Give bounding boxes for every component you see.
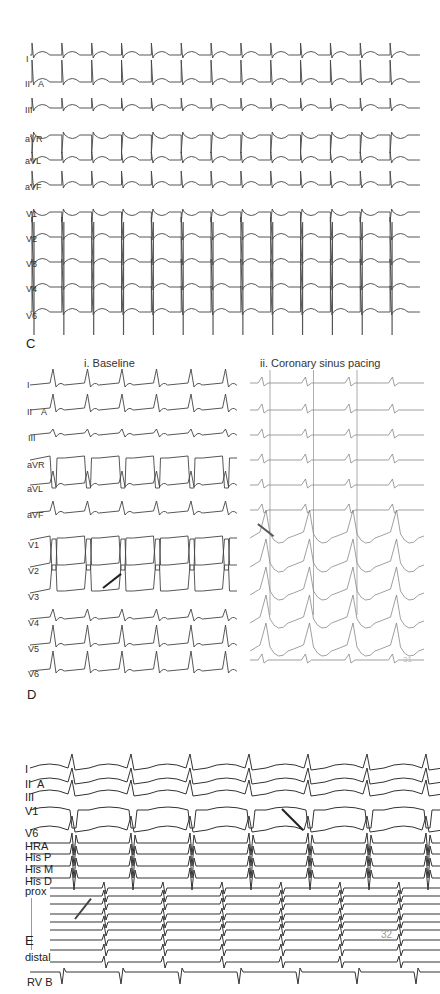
ecg-trace [30,807,440,828]
d-lead-label-v5: V5 [28,645,39,654]
e-lead-label-iii: III [25,792,34,803]
ecg-trace [50,908,440,920]
lead-label-avr: aVR [25,135,43,144]
ecg-trace [250,479,424,488]
panel-letter-e: E [25,933,34,948]
ecg-trace [30,98,420,111]
d-lead-label-v3: V3 [28,593,39,602]
d-lead-label-i: I [27,381,30,390]
lead-label-avf: aVF [25,183,42,192]
ecg-trace [50,882,440,894]
e-lead-label-distal: distal [25,952,51,963]
annotation-a-d: A [41,408,47,417]
page-number-31: 31 [403,655,412,664]
lead-label-iii: III [25,106,33,115]
ecg-trace [250,429,424,438]
annotation-a-c: A [38,80,44,89]
ecg-trace [250,510,424,543]
e-lead-label-v1: V1 [25,806,38,817]
panel-c-traces [0,0,440,345]
ecg-trace [30,868,440,890]
lead-label-v2: V2 [26,235,37,244]
d-lead-label-v6: V6 [28,670,39,679]
ecg-trace [250,595,424,628]
ecg-trace [30,471,237,487]
panel-e: I II A III V1 V6 HRA His P His M His D p… [0,700,440,994]
ecg-trace [30,754,440,770]
ecg-trace [30,209,420,222]
ecg-trace [30,609,237,621]
ecg-trace [30,625,237,647]
panel-e-traces [0,700,440,994]
page-number-32: 32 [381,929,392,940]
e-lead-label-his-m: His M [25,864,53,875]
cs-pacing-traces [220,355,440,685]
panel-d: i. Baseline ii. Coronary sinus pacing I … [0,355,440,685]
d-lead-label-v1: V1 [28,541,39,550]
ecg-trace [30,429,237,437]
ecg-trace [30,651,237,673]
d-lead-label-iii: III [28,434,36,443]
e-lead-label-his-p: His P [25,852,51,863]
ecg-trace [250,623,424,656]
ecg-trace [50,898,440,910]
panel-letter-c: C [26,336,35,351]
lead-label-ii: II [25,80,30,89]
panel-c: I II A III aVR aVL aVF V1 V2 V3 V4 V6 C [0,0,440,345]
d-lead-label-ii: II [27,408,32,417]
ecg-trace [50,944,440,956]
e-lead-label-v6: V6 [25,828,38,839]
ecg-trace [30,816,440,832]
e-lead-label-i: I [25,764,28,775]
e-lead-label-rv-b: RV B [27,977,52,988]
ecg-trace [30,856,440,878]
ecg-trace [30,43,420,58]
ecg-trace [30,565,237,593]
ecg-trace [50,916,440,928]
e-lead-label-ii: II [25,779,31,790]
lead-label-avl: aVL [25,157,41,166]
ecg-trace [250,454,424,463]
ecg-trace [50,956,440,968]
lead-label-v4: V4 [26,285,37,294]
lead-label-v6: V6 [26,312,37,321]
ecg-trace [30,768,440,784]
ecg-trace [30,60,420,85]
ecg-trace [30,968,440,984]
ecg-trace [30,844,440,866]
d-lead-label-avr: aVR [27,461,45,470]
annotation-a-e: A [37,779,44,790]
ecg-trace [30,501,237,515]
ecg-trace [250,377,424,386]
lead-label-v1: V1 [26,210,37,219]
ecg-trace [30,171,420,188]
ecg-trace [30,217,420,240]
d-lead-label-v4: V4 [28,619,39,628]
ecg-trace [50,890,440,902]
ecg-trace [30,369,237,387]
e-lead-label-prox: prox [25,886,46,897]
ecg-trace [30,152,420,163]
lead-label-i: I [26,55,29,64]
d-lead-label-avl: aVL [27,485,43,494]
ecg-trace [250,504,424,513]
ecg-trace [250,539,424,572]
lead-label-v3: V3 [26,260,37,269]
ecg-trace [30,539,237,567]
ecg-trace [250,404,424,413]
ecg-trace [250,567,424,600]
ecg-trace [30,833,440,855]
ecg-trace [30,132,420,153]
baseline-traces [0,355,220,685]
d-lead-label-v2: V2 [28,567,39,576]
ecg-trace [30,394,237,412]
d-lead-label-avf: aVF [27,511,44,520]
